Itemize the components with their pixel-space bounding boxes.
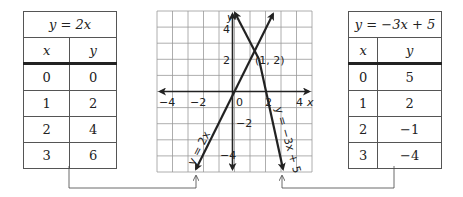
- y-tick: −4: [220, 149, 236, 162]
- x-tick: 4: [296, 96, 303, 109]
- connector-arrows: [69, 166, 394, 188]
- x-axis-label: x: [306, 96, 314, 109]
- x-tick: −4: [159, 96, 175, 109]
- x-tick: 0: [236, 96, 243, 109]
- x-tick: −2: [190, 96, 206, 109]
- coordinate-graph: y x −4 −2 0 2 4 4 2 −2 −4 (1, 2) y = 2x …: [0, 0, 463, 197]
- x-tick: 2: [265, 96, 272, 109]
- line1-label: y = 2x: [185, 129, 213, 168]
- y-tick: −2: [236, 117, 252, 130]
- y-tick: 2: [223, 54, 230, 67]
- intersection-label: (1, 2): [255, 54, 285, 67]
- y-tick: 4: [223, 23, 230, 36]
